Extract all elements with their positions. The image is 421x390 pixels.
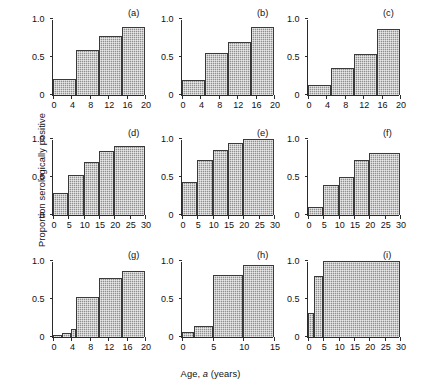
x-tick-label: 12 xyxy=(359,100,369,110)
x-tick: 0 xyxy=(308,337,309,341)
x-tick: 15 xyxy=(274,337,275,341)
x-tick-label: 15 xyxy=(270,342,280,352)
y-tick-label: 0.5 xyxy=(161,52,174,62)
x-tick: 10 xyxy=(339,337,340,341)
y-tick: 1.0 xyxy=(179,138,183,139)
x-tick: 0 xyxy=(182,337,183,341)
x-tick: 20 xyxy=(369,337,370,341)
x-tick: 5 xyxy=(323,337,324,341)
x-tick: 16 xyxy=(382,95,383,99)
x-tick: 20 xyxy=(114,215,115,219)
x-tick: 20 xyxy=(274,95,275,99)
y-tick-label: 1.0 xyxy=(161,134,174,144)
x-tick-label: 8 xyxy=(217,100,222,110)
plot-area: 00.51.0051015202530 xyxy=(52,140,144,216)
x-tick-label: 8 xyxy=(88,100,93,110)
x-tick: 8 xyxy=(219,95,220,99)
x-tick-label: 0 xyxy=(51,100,56,110)
x-tick: 8 xyxy=(90,95,91,99)
y-tick-label: 0 xyxy=(39,210,44,220)
y-tick-label: 0 xyxy=(39,90,44,100)
bar xyxy=(331,68,354,95)
x-tick: 15 xyxy=(354,337,355,341)
y-tick-label: 1.0 xyxy=(161,14,174,24)
y-tick: 1.0 xyxy=(179,260,183,261)
x-tick-label: 30 xyxy=(270,220,280,230)
bar xyxy=(354,54,377,95)
plot-area: 00.51.0048121620 xyxy=(181,20,273,96)
bar xyxy=(182,80,205,95)
y-tick-label: 1.0 xyxy=(32,256,45,266)
x-tick: 0 xyxy=(182,215,183,219)
y-tick-label: 0 xyxy=(294,210,299,220)
bar xyxy=(308,85,331,95)
plot-area: 00.51.0051015202530 xyxy=(181,140,273,216)
x-tick: 5 xyxy=(197,215,198,219)
x-tick: 0 xyxy=(53,95,54,99)
y-tick-label: 0.5 xyxy=(161,294,174,304)
x-tick: 10 xyxy=(243,337,244,341)
x-tick: 5 xyxy=(323,215,324,219)
x-tick: 15 xyxy=(99,215,100,219)
bar xyxy=(228,143,243,215)
x-tick-label: 16 xyxy=(378,100,388,110)
panel-label: (i) xyxy=(383,250,391,260)
x-tick: 16 xyxy=(127,337,128,341)
y-tick-label: 0.5 xyxy=(287,52,300,62)
panel-label: (g) xyxy=(128,250,139,260)
plot-area: 00.51.0048121620 xyxy=(52,262,144,338)
panel-label: (b) xyxy=(257,8,268,18)
x-tick-label: 0 xyxy=(180,220,185,230)
x-tick-label: 0 xyxy=(306,220,311,230)
y-tick: 1.0 xyxy=(50,18,54,19)
x-tick-label: 12 xyxy=(104,100,114,110)
bar xyxy=(205,53,228,95)
x-tick-label: 10 xyxy=(80,220,90,230)
x-tick-label: 16 xyxy=(123,100,133,110)
x-tick-label: 20 xyxy=(365,220,375,230)
x-tick: 12 xyxy=(363,95,364,99)
bar-series xyxy=(308,20,399,95)
x-tick-label: 0 xyxy=(306,342,311,352)
bar xyxy=(122,271,145,337)
x-tick-label: 20 xyxy=(141,342,151,352)
bar xyxy=(53,193,68,215)
y-tick-label: 0.5 xyxy=(287,172,300,182)
x-tick-label: 20 xyxy=(365,342,375,352)
bar xyxy=(377,29,400,95)
y-tick: 1.0 xyxy=(305,138,309,139)
bar xyxy=(323,261,400,337)
bar xyxy=(182,182,197,215)
bar-series xyxy=(182,140,273,215)
x-tick-label: 4 xyxy=(70,342,75,352)
x-tick-label: 12 xyxy=(104,342,114,352)
bar-series xyxy=(308,262,399,337)
panel-label: (a) xyxy=(128,8,139,18)
y-tick: 1.0 xyxy=(305,260,309,261)
x-tick-label: 12 xyxy=(233,100,243,110)
x-tick-label: 0 xyxy=(51,220,56,230)
x-tick-label: 4 xyxy=(70,100,75,110)
panel-label: (d) xyxy=(128,128,139,138)
x-tick: 16 xyxy=(127,95,128,99)
x-tick: 30 xyxy=(400,215,401,219)
bar-series xyxy=(53,20,144,95)
x-tick: 10 xyxy=(213,215,214,219)
y-tick-label: 0.5 xyxy=(32,52,45,62)
x-tick-label: 25 xyxy=(126,220,136,230)
x-tick-label: 5 xyxy=(322,342,327,352)
x-tick: 30 xyxy=(274,215,275,219)
x-tick: 0 xyxy=(308,95,309,99)
bar-series xyxy=(53,140,144,215)
bar xyxy=(76,297,99,337)
bar xyxy=(99,36,122,95)
y-tick-label: 0.5 xyxy=(161,172,174,182)
y-tick-label: 0 xyxy=(294,90,299,100)
x-tick-label: 25 xyxy=(255,220,265,230)
x-tick-label: 8 xyxy=(88,342,93,352)
x-tick: 4 xyxy=(71,95,72,99)
x-tick: 30 xyxy=(145,215,146,219)
x-tick-label: 10 xyxy=(209,220,219,230)
figure-seroprevalence-panels: Proportion serologically positive Age, a… xyxy=(0,0,421,390)
bar-series xyxy=(308,140,399,215)
